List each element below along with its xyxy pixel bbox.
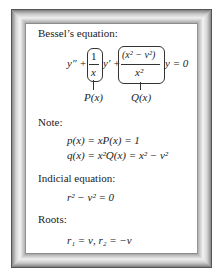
frame-left-bevel (12, 10, 26, 267)
q-label: Q(x) (131, 92, 151, 103)
indicial-heading: Indicial equation: (38, 173, 115, 184)
indicial-equation: r² − ν² = 0 (67, 192, 114, 203)
frame-right-bevel (197, 10, 211, 267)
q-numerator: (x² − ν²) (122, 50, 155, 60)
bessel-y-double-prime: y″ + (67, 58, 87, 69)
q-denominator: x² (135, 67, 143, 78)
p-label: P(x) (84, 92, 103, 103)
roots-equation: r₁ = ν, r₂ = −ν (67, 235, 132, 246)
p-connector-line (93, 80, 94, 90)
p-fraction-bar (89, 64, 99, 65)
q-connector-line (140, 82, 141, 90)
frame-top-bevel (12, 10, 211, 24)
frame-bottom-bevel (12, 253, 211, 267)
q-fraction-bar (121, 64, 160, 65)
note-line-1: p(x) = xP(x) = 1 (67, 135, 140, 146)
p-denominator: x (91, 67, 96, 78)
note-line-2: q(x) = x²Q(x) = x² − ν² (67, 150, 168, 161)
p-numerator: 1 (91, 51, 97, 62)
bessel-rhs: y = 0 (165, 58, 188, 69)
bessel-heading: Bessel’s equation: (38, 28, 118, 39)
note-heading: Note: (38, 117, 62, 128)
roots-heading: Roots: (38, 214, 67, 225)
